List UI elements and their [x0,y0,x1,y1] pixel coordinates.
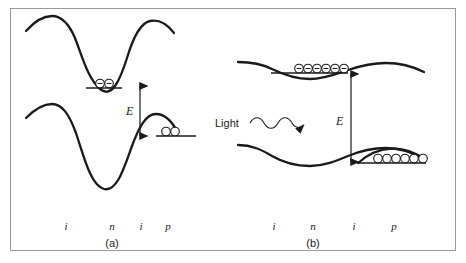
panel-a-valence-band [26,104,177,189]
panel-b-region-label-1: n [310,220,316,232]
panel-a: E i n i p (a) [26,16,196,249]
panel-a-region-label-0: i [64,220,67,232]
panel-b-energy-label: E [335,114,344,128]
panel-b-region-label-3: p [390,220,397,232]
panel-a-region-label-2: i [139,220,142,232]
panel-b-valence-carriers [374,154,428,163]
panel-b-region-label-2: i [352,220,355,232]
panel-a-valence-carriers [162,127,180,136]
light-wave-arrow [250,118,304,129]
panel-b-caption: (b) [306,237,319,249]
panel-a-region-label-1: n [109,220,115,232]
panel-a-caption: (a) [105,237,118,249]
band-diagram-figure: E i n i p (a) [0,0,466,263]
diagram-canvas: E i n i p (a) [0,0,466,263]
panel-b-region-label-0: i [272,220,275,232]
panel-a-conduction-carriers [96,79,114,88]
panel-b: E Light i n i p (b) [215,62,427,249]
panel-b-conduction-carriers [295,64,349,73]
light-label: Light [215,117,239,129]
panel-a-energy-label: E [125,104,134,118]
panel-a-region-label-3: p [164,220,171,232]
